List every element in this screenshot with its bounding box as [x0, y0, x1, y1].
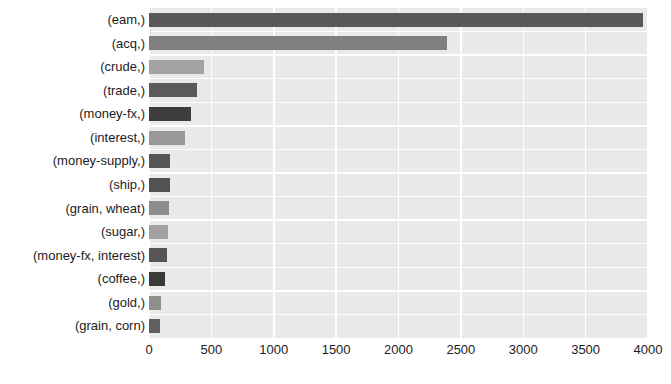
gridline-horizontal: [149, 125, 648, 127]
x-axis-tick-label: 0: [145, 342, 152, 357]
gridline-horizontal: [149, 149, 648, 151]
y-axis-tick-label: (grain, wheat): [0, 197, 145, 221]
x-axis-tick-label: 3000: [509, 342, 538, 357]
x-axis-tick-label: 500: [201, 342, 223, 357]
bar: [149, 248, 167, 262]
bar: [149, 60, 204, 74]
y-axis-tick-label: (money-fx,): [0, 102, 145, 126]
gridline-horizontal: [149, 172, 648, 174]
bar: [149, 36, 447, 50]
y-axis-tick-label: (grain, corn): [0, 314, 145, 338]
gridline-horizontal: [149, 196, 648, 198]
bar: [149, 178, 170, 192]
bar: [149, 272, 165, 286]
x-axis-tick-label: 1500: [322, 342, 351, 357]
plot-area: [149, 8, 648, 338]
bar-row: [149, 8, 643, 32]
bar-row: [149, 220, 168, 244]
y-axis-tick-label: (crude,): [0, 55, 145, 79]
gridline-horizontal: [149, 290, 648, 292]
gridline-horizontal: [149, 219, 648, 221]
bar-row: [149, 102, 191, 126]
y-axis-tick-label: (ship,): [0, 173, 145, 197]
bar-row: [149, 32, 447, 56]
bar: [149, 225, 168, 239]
bar-row: [149, 149, 170, 173]
x-axis-tick-labels: 05001000150020002500300035004000: [0, 342, 671, 364]
y-axis-tick-label: (acq,): [0, 32, 145, 56]
bar: [149, 13, 643, 27]
bar: [149, 131, 185, 145]
bar: [149, 201, 169, 215]
bar-row: [149, 244, 167, 268]
bar-chart-figure: (eam,)(acq,)(crude,)(trade,)(money-fx,)(…: [0, 0, 671, 384]
y-axis-tick-label: (money-supply,): [0, 149, 145, 173]
bar: [149, 107, 191, 121]
y-axis-tick-label: (eam,): [0, 8, 145, 32]
bar-row: [149, 291, 161, 315]
y-axis-tick-label: (interest,): [0, 126, 145, 150]
x-axis-tick-label: 2500: [446, 342, 475, 357]
bar-row: [149, 314, 160, 338]
bar: [149, 319, 160, 333]
bar-row: [149, 55, 204, 79]
y-axis-tick-label: (sugar,): [0, 220, 145, 244]
bar-row: [149, 197, 169, 221]
x-axis-tick-label: 1000: [259, 342, 288, 357]
gridline-horizontal: [149, 243, 648, 245]
y-axis-tick-label: (coffee,): [0, 267, 145, 291]
bar: [149, 83, 197, 97]
bar-row: [149, 126, 185, 150]
x-axis-tick-label: 3500: [571, 342, 600, 357]
y-axis-tick-labels: (eam,)(acq,)(crude,)(trade,)(money-fx,)(…: [0, 8, 145, 338]
bar-row: [149, 79, 197, 103]
y-axis-tick-label: (trade,): [0, 79, 145, 103]
x-axis-tick-label: 4000: [634, 342, 663, 357]
gridline-horizontal: [149, 314, 648, 316]
bar-row: [149, 267, 165, 291]
y-axis-tick-label: (gold,): [0, 291, 145, 315]
bar-row: [149, 173, 170, 197]
bar: [149, 154, 170, 168]
gridline-horizontal: [149, 78, 648, 80]
gridline-horizontal: [149, 102, 648, 104]
y-axis-tick-label: (money-fx, interest): [0, 244, 145, 268]
bar: [149, 296, 161, 310]
x-axis-tick-label: 2000: [384, 342, 413, 357]
gridline-horizontal: [149, 267, 648, 269]
